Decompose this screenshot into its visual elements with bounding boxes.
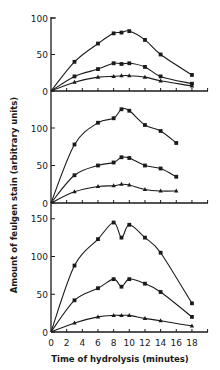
square-marker [120,62,124,66]
x-tick-label: 14 [155,338,167,348]
square-marker [112,277,116,281]
square-marker [73,60,77,64]
square-marker [159,129,163,133]
x-tick-label: 6 [95,338,101,348]
square-marker [159,290,163,294]
x-tick-label: 4 [79,338,85,348]
x-tick-label: 0 [48,338,54,348]
square-marker [73,143,77,147]
x-axis-title: Time of hydrolysis (minutes) [51,354,189,364]
y-axis-title: Amount of feulgen stain (arbitrary units… [9,97,19,294]
y-tick-label: 100 [31,124,48,134]
square-marker [143,282,147,286]
square-marker [127,277,131,281]
x-tick-label: 10 [124,338,136,348]
square-marker [73,264,77,268]
square-marker [96,286,100,290]
x-tick-label: 12 [139,338,150,348]
x-tick-label: 2 [64,338,70,348]
feulgen-hydrolysis-chart: 050100050100050100150024681012141618 Amo… [0,0,220,370]
y-tick-label: 50 [37,161,49,171]
y-tick-label: 0 [42,199,48,209]
square-marker [96,121,100,125]
square-marker [159,167,163,171]
panel-top: 050100 [31,14,208,97]
square-marker [96,67,100,71]
square-marker [120,236,124,240]
square-marker [120,31,124,35]
square-marker [112,116,116,120]
x-tick-label: 16 [171,338,183,348]
square-marker [96,164,100,168]
square-marker [127,61,131,65]
y-tick-label: 0 [42,87,48,97]
square-marker [143,65,147,69]
square-marker [190,315,194,319]
y-tick-label: 50 [37,50,49,60]
y-tick-label: 50 [37,290,49,300]
square-marker [143,38,147,42]
square-marker [73,173,77,177]
square-marker [112,31,116,35]
square-marker [96,237,100,241]
square-marker [127,109,131,113]
square-marker [120,107,124,111]
square-marker [112,161,116,165]
panel-bottom: 050100150 [31,207,208,338]
y-tick-label: 100 [31,252,48,262]
square-marker [143,123,147,127]
x-tick-label: 18 [186,338,198,348]
square-marker [174,175,178,179]
square-marker [174,141,178,145]
series-curve [51,108,176,203]
square-marker [159,75,163,79]
x-tick-labels: 024681012141618 [48,338,198,348]
square-marker [120,155,124,159]
square-marker [127,223,131,227]
y-tick-label: 150 [31,214,48,224]
square-marker [127,29,131,33]
square-marker [112,221,116,225]
square-marker [73,298,77,302]
square-marker [127,156,131,160]
square-marker [143,236,147,240]
square-marker [112,61,116,65]
x-tick-label: 8 [111,338,117,348]
square-marker [120,285,124,289]
square-marker [73,75,77,79]
square-marker [159,251,163,255]
series-curve [51,315,192,332]
square-marker [143,164,147,168]
square-marker [190,301,194,305]
panel-middle: 050100 [31,95,208,209]
square-marker [190,73,194,77]
square-marker [159,53,163,57]
square-marker [96,42,100,46]
y-tick-label: 100 [31,14,48,24]
y-tick-label: 0 [42,328,48,338]
